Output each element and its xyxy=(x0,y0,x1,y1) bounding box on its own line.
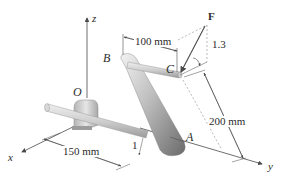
force-slope-rise: 1.3 xyxy=(212,38,226,50)
point-label-b: B xyxy=(103,51,111,65)
dimension-label-200mm: 200 mm xyxy=(209,115,246,127)
force-slope-run: 1 xyxy=(132,139,138,151)
z-axis: z xyxy=(87,12,97,98)
dimension-label-100mm: 100 mm xyxy=(135,35,172,47)
point-label-c: C xyxy=(166,62,175,76)
point-label-o: O xyxy=(73,85,82,99)
force-slope-run-marker: 1 xyxy=(132,138,143,155)
point-label-a: A xyxy=(185,130,194,144)
dimension-200mm: 200 mm xyxy=(183,70,248,162)
x-axis-label: x xyxy=(7,151,13,163)
dimension-150mm: 150 mm xyxy=(42,133,130,170)
z-axis-label: z xyxy=(91,12,97,24)
dimension-label-150mm: 150 mm xyxy=(63,145,100,157)
force-vector: F 1.3 xyxy=(178,10,226,75)
y-axis-label: y xyxy=(267,160,273,172)
force-label: F xyxy=(208,10,215,22)
crank-diagram: z x y 100 mm xyxy=(0,0,284,180)
